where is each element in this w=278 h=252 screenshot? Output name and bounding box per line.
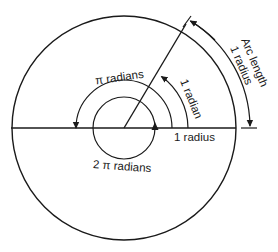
arc-length-arrow-start (191, 21, 216, 40)
arrowhead-two-pi-icon (152, 122, 159, 130)
label-pi-radians: π radians (94, 68, 144, 87)
label-two-pi-radians: 2 π radians (93, 158, 152, 174)
label-one-radius: 1 radius (174, 131, 215, 143)
pi-radians-arc (76, 80, 172, 128)
radian-diagram: π radians 1 radian 1 radius 2 π radians … (0, 0, 278, 252)
label-one-radian: 1 radian (178, 77, 205, 120)
arc-end-tick-top (183, 16, 191, 27)
